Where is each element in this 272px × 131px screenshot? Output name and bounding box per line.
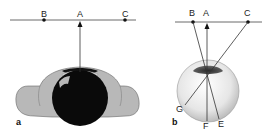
panel-b: B A C G F E b xyxy=(172,8,262,131)
arrow-head-a xyxy=(78,21,83,27)
panel-a: B A C a xyxy=(10,9,139,127)
arrow-head-b xyxy=(205,23,210,29)
label-b-b: B xyxy=(189,8,195,18)
panel-label-b: b xyxy=(172,117,178,127)
label-c-a: C xyxy=(122,9,129,19)
label-g: G xyxy=(176,104,183,114)
eyeball-black xyxy=(52,70,108,126)
label-b-a: B xyxy=(41,9,47,19)
label-f: F xyxy=(203,121,209,131)
label-a-b: A xyxy=(203,8,209,18)
figure-canvas: B A C a B A C xyxy=(0,0,272,131)
panel-label-a: a xyxy=(16,117,22,127)
label-e: E xyxy=(218,119,224,129)
label-c-b: C xyxy=(244,8,251,18)
label-a-a: A xyxy=(77,9,83,19)
